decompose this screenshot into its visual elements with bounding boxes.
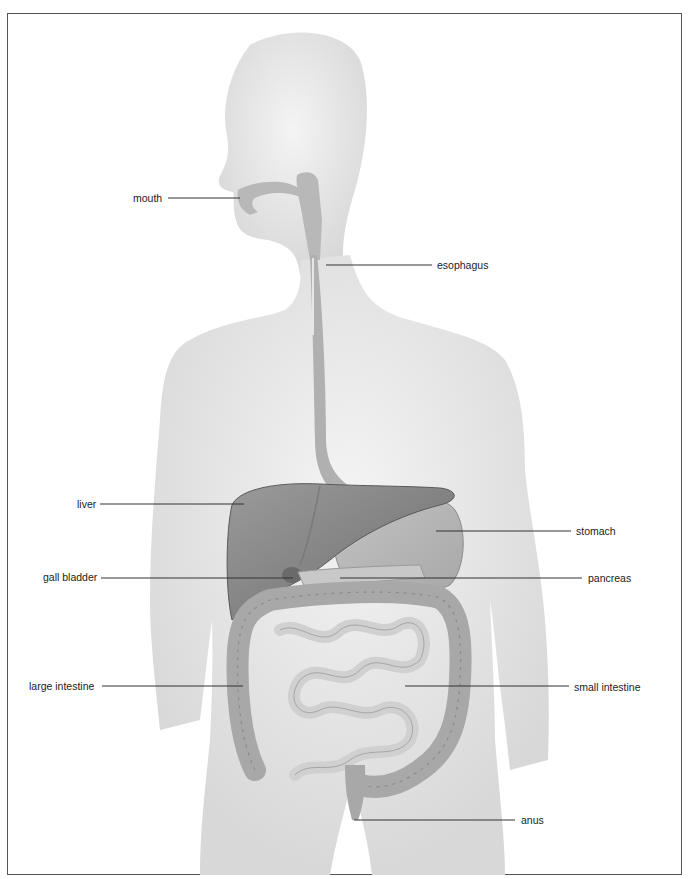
- label-large-intestine: large intestine: [29, 680, 94, 692]
- label-liver: liver: [77, 498, 96, 510]
- label-small-intestine: small intestine: [574, 681, 641, 693]
- label-pancreas: pancreas: [588, 572, 631, 584]
- body-silhouette: [150, 32, 549, 875]
- digestive-system-illustration: [0, 0, 689, 879]
- label-mouth: mouth: [133, 192, 162, 204]
- label-gall-bladder: gall bladder: [43, 571, 97, 583]
- label-esophagus: esophagus: [437, 259, 488, 271]
- label-stomach: stomach: [576, 525, 616, 537]
- label-anus: anus: [521, 814, 544, 826]
